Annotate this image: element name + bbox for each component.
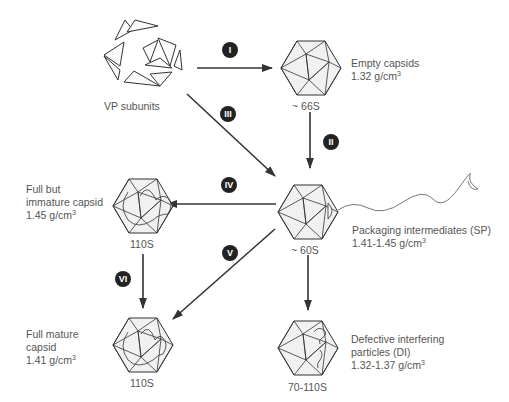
arrow-step-V: [173, 229, 275, 319]
empty-capsid-density: 1.32 g/cm3: [351, 70, 401, 83]
vp-subunits-label: VP subunits: [104, 100, 160, 113]
mature-name-line2: capsid: [26, 341, 56, 354]
svg-text:I: I: [229, 45, 232, 55]
arrow-step-III: [187, 94, 275, 176]
badge-step-III: III: [220, 106, 236, 122]
empty-capsid-sed: ~ 66S: [292, 100, 320, 113]
defective-particle-icon: [278, 321, 338, 375]
arrows: [143, 68, 310, 319]
empty-capsid-icon: [281, 41, 341, 95]
vp-subunits-icon: [104, 20, 182, 86]
svg-text:II: II: [328, 137, 333, 147]
defective-name-line2: particles (DI): [351, 346, 411, 359]
mature-name-line1: Full mature: [26, 328, 79, 341]
empty-capsid-name: Empty capsids: [351, 57, 419, 70]
badge-step-VI: VI: [115, 271, 131, 287]
immature-name-line2: immature capsid: [26, 196, 103, 209]
packaging-name: Packaging intermediates (SP): [352, 224, 491, 237]
rna-strand: [338, 173, 478, 211]
defective-sed: 70-110S: [288, 381, 327, 394]
immature-sed: 110S: [130, 238, 154, 251]
immature-capsid-icon: [113, 179, 173, 233]
badge-step-II: II: [323, 134, 339, 150]
mature-sed: 110S: [130, 377, 154, 390]
mature-capsid-icon: [113, 318, 173, 372]
defective-density: 1.32-1.37 g/cm3: [351, 359, 425, 372]
immature-name-line1: Full but: [26, 183, 60, 196]
svg-text:V: V: [227, 248, 233, 258]
svg-text:IV: IV: [225, 180, 234, 190]
defective-name-line1: Defective interfering: [351, 333, 444, 346]
packaging-density: 1.41-1.45 g/cm3: [352, 237, 426, 250]
svg-text:III: III: [224, 109, 232, 119]
svg-text:VI: VI: [119, 274, 128, 284]
packaging-sed: ~ 60S: [291, 244, 319, 257]
badge-step-IV: IV: [221, 177, 237, 193]
badge-step-V: V: [222, 245, 238, 261]
mature-density: 1.41 g/cm3: [26, 354, 76, 367]
immature-density: 1.45 g/cm3: [26, 209, 76, 222]
badge-step-I: I: [222, 42, 238, 58]
